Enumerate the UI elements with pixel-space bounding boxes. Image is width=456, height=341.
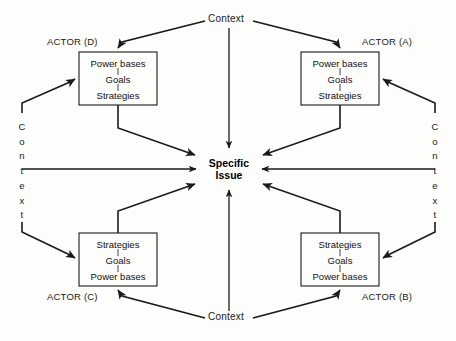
arrow-actor-a-to-center: [263, 105, 340, 155]
center-node: Specific Issue: [200, 157, 258, 182]
actor-b-item-2: Goals: [301, 256, 379, 266]
center-line-1: Specific: [200, 157, 258, 169]
actor-c-item-1: Strategies: [79, 240, 157, 250]
arrow-top-context-to-actor-d: [118, 21, 205, 48]
actor-a-item-3: Strategies: [301, 91, 379, 101]
arrow-bottom-context-to-actor-b: [253, 290, 340, 318]
arrow-actor-b-to-center: [263, 184, 340, 233]
arrow-actor-d-to-center: [118, 105, 195, 155]
actor-b-label: ACTOR (B): [362, 292, 412, 302]
center-line-2: Issue: [200, 169, 258, 181]
actor-b-item-1: Strategies: [301, 240, 379, 250]
context-bottom-label: Context: [208, 312, 244, 322]
arrow-actor-c-to-center: [118, 184, 195, 233]
actor-b-item-3: Power bases: [301, 272, 379, 282]
context-top-label: Context: [208, 14, 244, 24]
context-left-label: Context: [16, 120, 28, 223]
actor-a-item-1: Power bases: [301, 59, 379, 69]
actor-c-item-3: Power bases: [79, 272, 157, 282]
actor-a-item-2: Goals: [301, 75, 379, 85]
arrow-right-context-to-actor-a: [383, 79, 435, 113]
diagram-canvas: Specific Issue Power bases Goals Strateg…: [0, 0, 456, 341]
arrow-bottom-context-to-actor-c: [118, 290, 205, 318]
actor-d-item-3: Strategies: [79, 91, 157, 101]
arrow-left-context-to-actor-c: [22, 222, 75, 258]
context-right-label: Context: [429, 120, 441, 223]
actor-a-label: ACTOR (A): [362, 37, 412, 47]
actor-c-item-2: Goals: [79, 256, 157, 266]
arrow-right-context-to-actor-b: [383, 222, 435, 258]
arrow-left-context-to-actor-d: [22, 79, 75, 113]
actor-d-item-1: Power bases: [79, 59, 157, 69]
actor-c-label: ACTOR (C): [47, 292, 98, 302]
actor-d-label: ACTOR (D): [47, 37, 98, 47]
arrow-top-context-to-actor-a: [253, 21, 340, 48]
actor-d-item-2: Goals: [79, 75, 157, 85]
